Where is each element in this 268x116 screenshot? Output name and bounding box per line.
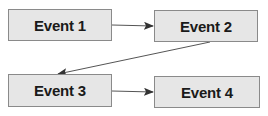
event-1-box: Event 1 (8, 9, 112, 41)
arrow-event2-to-event3 (58, 42, 210, 74)
event-4-label: Event 4 (181, 84, 233, 101)
event-2-box: Event 2 (154, 10, 258, 42)
flowchart-diagram: Event 1 Event 2 Event 3 Event 4 (0, 0, 268, 116)
event-2-label: Event 2 (180, 18, 232, 35)
event-3-box: Event 3 (8, 74, 112, 107)
event-4-box: Event 4 (154, 76, 260, 108)
event-3-label: Event 3 (34, 82, 86, 99)
arrow-event1-to-event2 (112, 25, 153, 26)
arrow-event3-to-event4 (112, 91, 153, 92)
event-1-label: Event 1 (34, 17, 86, 34)
